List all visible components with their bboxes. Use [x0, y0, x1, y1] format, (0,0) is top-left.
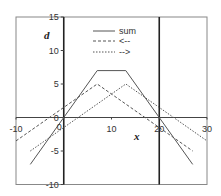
- legend-label-left: <--: [119, 36, 130, 46]
- y-axis-title: d: [44, 29, 50, 41]
- x-tick-label: 10: [106, 124, 116, 134]
- legend: sum <-- -->: [93, 26, 136, 57]
- y-tick-label: -5: [51, 146, 59, 156]
- x-tick-label: 30: [202, 124, 212, 134]
- x-tick-label: -10: [9, 124, 22, 134]
- x-tick-label: 0: [57, 122, 62, 132]
- x-tick-label: 20: [154, 124, 164, 134]
- line-chart: -10-5051015-100102030 d x sum <-- -->: [0, 0, 221, 196]
- legend-label-right: -->: [119, 47, 130, 57]
- plot-frame: [16, 17, 207, 185]
- legend-label-sum: sum: [119, 26, 136, 36]
- y-tick-label: 15: [49, 12, 59, 22]
- y-tick-label: -10: [46, 180, 59, 190]
- y-tick-label: 10: [49, 46, 59, 56]
- x-axis-title: x: [133, 130, 140, 142]
- y-tick-label: 5: [54, 79, 59, 89]
